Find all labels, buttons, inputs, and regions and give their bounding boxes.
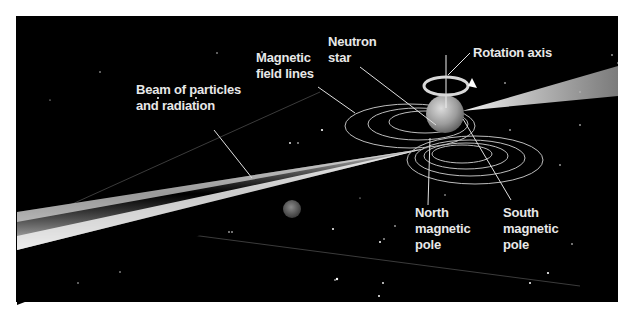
- label-north-pole: North magnetic pole: [415, 205, 470, 253]
- label-beam-line1: Beam of particles: [136, 82, 241, 98]
- label-neutron-line2: star: [328, 50, 376, 66]
- label-beam-line2: and radiation: [136, 98, 241, 114]
- label-magnetic-field-lines: Magnetic field lines: [256, 50, 314, 82]
- pulsar-diagram: Beam of particles and radiation Magnetic…: [0, 0, 633, 318]
- label-south-line3: pole: [503, 237, 558, 253]
- label-rotation-axis: Rotation axis: [473, 45, 552, 61]
- label-north-line3: pole: [415, 237, 470, 253]
- planet: [283, 200, 301, 218]
- label-field-line2: field lines: [256, 66, 314, 82]
- neutron-star: [426, 95, 464, 133]
- label-beam: Beam of particles and radiation: [136, 82, 241, 114]
- label-north-line2: magnetic: [415, 221, 470, 237]
- label-neutron-star: Neutron star: [328, 34, 376, 66]
- label-neutron-line1: Neutron: [328, 34, 376, 50]
- label-south-pole: South magnetic pole: [503, 205, 558, 253]
- label-field-line1: Magnetic: [256, 50, 314, 66]
- label-rotation-line1: Rotation axis: [473, 45, 552, 61]
- label-north-line1: North: [415, 205, 470, 221]
- label-south-line1: South: [503, 205, 558, 221]
- label-south-line2: magnetic: [503, 221, 558, 237]
